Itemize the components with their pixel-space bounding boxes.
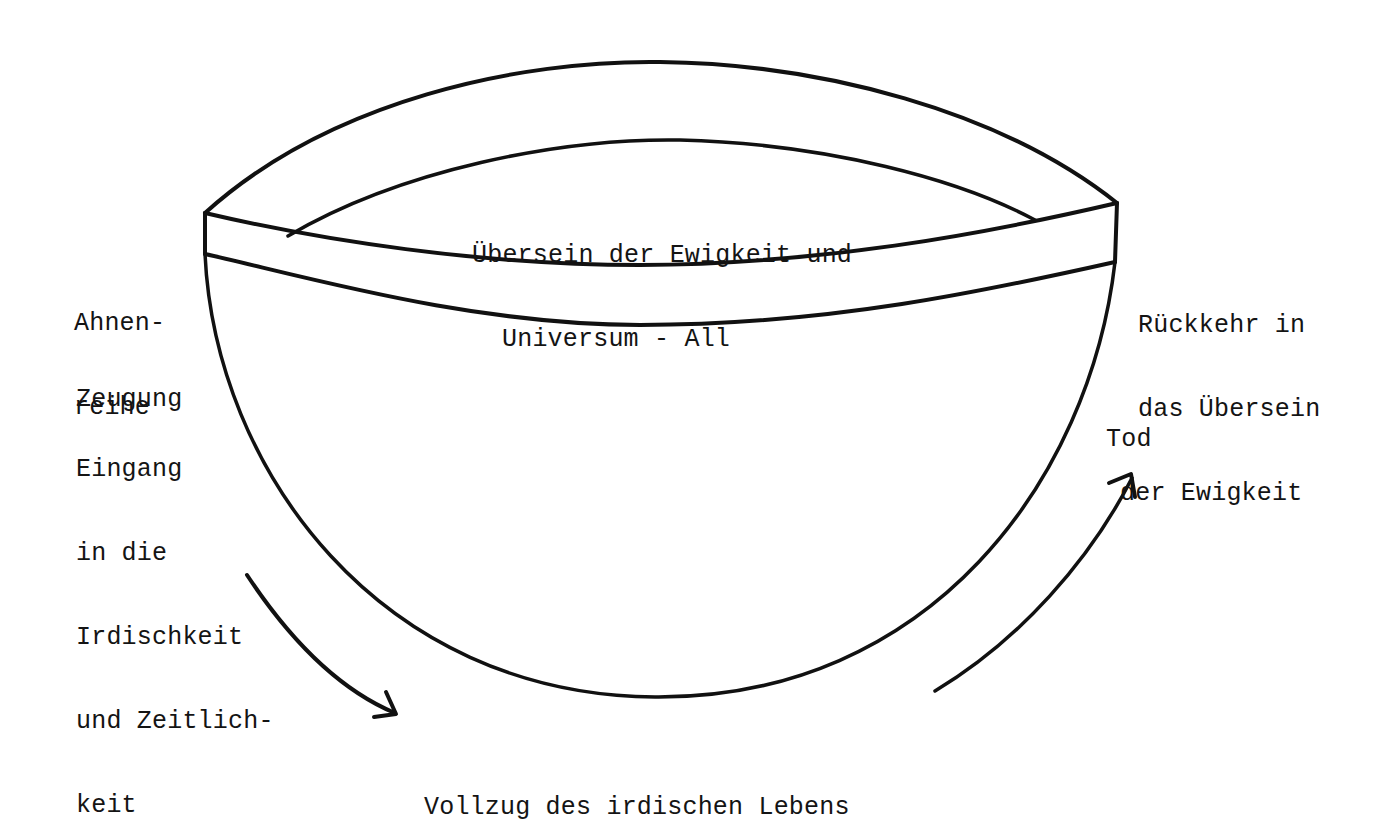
- entry-label-line-3: Irdischkeit: [76, 624, 274, 652]
- entry-label-line-2: in die: [76, 540, 274, 568]
- entry-label-line-5: keit: [76, 792, 274, 820]
- death-label: Tod: [1106, 370, 1152, 482]
- ascent-arrow-shaft: [935, 478, 1132, 691]
- eternity-label-line-1: Übersein der Ewigkeit und: [472, 242, 852, 270]
- earthly-life-label-text: Vollzug des irdischen Lebens: [424, 794, 850, 822]
- return-label-line-3: der Ewigkeit: [1120, 480, 1320, 508]
- entry-label-line-4: und Zeitlich-: [76, 708, 274, 736]
- entry-into-earthliness-label: Eingang in die Irdischkeit und Zeitlich-…: [76, 400, 274, 823]
- earthly-life-label: Vollzug des irdischen Lebens: [424, 738, 850, 823]
- return-label-line-1: Rückkehr in: [1120, 312, 1320, 340]
- band-right-edge: [1115, 203, 1117, 262]
- entry-label-line-1: Eingang: [76, 456, 274, 484]
- death-label-text: Tod: [1106, 426, 1152, 454]
- eternity-label-line-2: Universum - All: [472, 326, 852, 354]
- eternity-universe-label: Übersein der Ewigkeit und Universum - Al…: [472, 186, 852, 382]
